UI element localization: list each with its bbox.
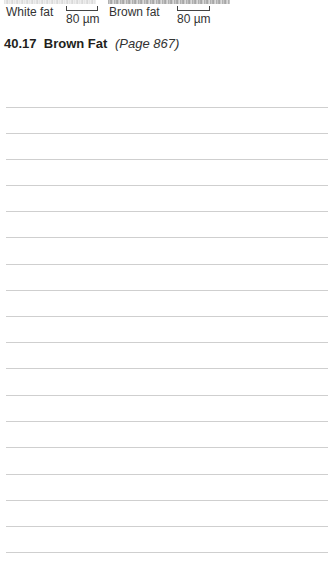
brown-fat-micrograph (108, 0, 230, 4)
note-line (6, 342, 328, 343)
note-line (6, 290, 328, 291)
micrograph-figure: White fat 80 µm Brown fat 80 µm (0, 0, 332, 26)
section-heading: 40.17 Brown Fat (Page 867) (4, 36, 179, 51)
note-line (6, 552, 328, 553)
note-line (6, 316, 328, 317)
note-line (6, 237, 328, 238)
note-line (6, 211, 328, 212)
white-fat-micrograph (4, 0, 96, 4)
brown-fat-scale-bar (177, 6, 210, 11)
note-line (6, 500, 328, 501)
note-line (6, 264, 328, 265)
white-fat-scale-text: 80 µm (66, 12, 100, 26)
note-line (6, 447, 328, 448)
note-line (6, 421, 328, 422)
brown-fat-label: Brown fat (109, 5, 160, 19)
brown-fat-scale-text: 80 µm (177, 12, 211, 26)
section-number: 40.17 (4, 36, 37, 51)
note-line (6, 107, 328, 108)
note-line (6, 159, 328, 160)
note-line (6, 185, 328, 186)
note-line (6, 133, 328, 134)
white-fat-label: White fat (6, 5, 53, 19)
note-line (6, 395, 328, 396)
page-reference: (Page 867) (115, 36, 179, 51)
white-fat-scale-bar (66, 6, 98, 11)
note-line (6, 526, 328, 527)
note-line (6, 474, 328, 475)
section-title: Brown Fat (44, 36, 108, 51)
note-line (6, 368, 328, 369)
